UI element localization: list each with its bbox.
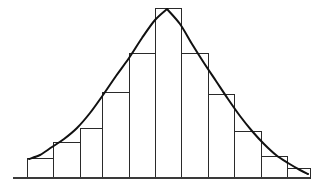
histogram-bar bbox=[156, 9, 182, 179]
histogram-bar bbox=[54, 143, 81, 179]
histogram-bar bbox=[103, 93, 130, 179]
histogram-bar bbox=[28, 159, 54, 179]
histogram-bar bbox=[209, 95, 235, 179]
histogram-bar bbox=[182, 54, 209, 179]
histogram-svg bbox=[0, 0, 322, 191]
chart-figure bbox=[0, 0, 322, 191]
histogram-bar bbox=[81, 129, 103, 179]
histogram-bar bbox=[130, 54, 156, 179]
histogram-bars bbox=[28, 9, 311, 179]
